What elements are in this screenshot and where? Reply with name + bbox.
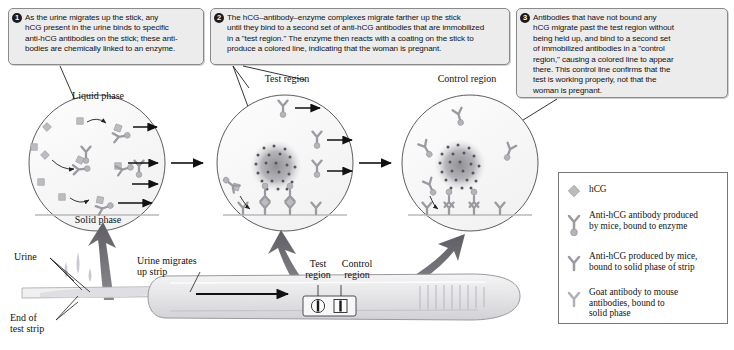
panel-2-test-region xyxy=(217,95,353,231)
pregnancy-test-diagram: 1 As the urine migrates up the stick, an… xyxy=(0,0,734,350)
urine-droplets xyxy=(65,252,92,282)
callout-1-number: 1 xyxy=(12,13,22,23)
pregnancy-test-stick xyxy=(22,252,520,320)
diamond-hcg-icon xyxy=(568,185,579,196)
antibody-solid-icon xyxy=(569,257,579,270)
legend-box: hCG Anti-hCG antibody produced by mice, … xyxy=(558,172,728,324)
label-control-region-stick: Control region xyxy=(330,258,384,280)
goat-antibody-icon xyxy=(569,293,579,306)
callout-2-number: 2 xyxy=(214,13,224,23)
antibody-enzyme-icon xyxy=(569,216,579,236)
callout-step-3: 3 Antibodies that have not bound any hCG… xyxy=(516,8,728,98)
label-liquid-phase: Liquid phase xyxy=(53,90,143,101)
label-end-of-test-strip: End of test strip xyxy=(10,312,68,334)
label-urine: Urine xyxy=(14,251,54,262)
label-test-region-panel: Test region xyxy=(243,73,331,84)
legend-label-goat-antibody: Goat antibody to mouse antibodies, bound… xyxy=(589,287,678,319)
callout-3-number: 3 xyxy=(520,13,530,23)
callout-step-2: 2 The hCG–antibody–enzyme complexes migr… xyxy=(210,8,510,65)
legend-label-hcg: hCG xyxy=(589,184,607,195)
label-urine-migrates-up-strip: Urine migrates up strip xyxy=(137,255,223,277)
label-solid-phase: Solid phase xyxy=(53,214,143,225)
callout-2-text: The hCG–antibody–enzyme complexes migrat… xyxy=(211,9,509,59)
callout-step-1: 1 As the urine migrates up the stick, an… xyxy=(8,8,204,65)
panel-3-control-region xyxy=(402,95,538,231)
legend-label-antibody-solid: Anti-hCG produced by mice, bound to soli… xyxy=(589,251,697,272)
label-control-region-panel: Control region xyxy=(412,73,522,84)
legend-label-antibody-enzyme: Anti-hCG antibody produced by mice, boun… xyxy=(589,210,698,231)
callout-1-text: As the urine migrates up the stick, any … xyxy=(9,9,203,59)
panel-1-liquid-phase xyxy=(29,95,165,231)
callout-3-text: Antibodies that have not bound any hCG m… xyxy=(517,9,727,100)
